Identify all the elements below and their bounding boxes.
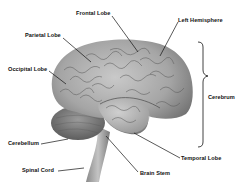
label-brain-stem: Brain Stem <box>140 171 170 177</box>
label-parietal-lobe: Parietal Lobe <box>25 33 61 39</box>
brain-diagram: Frontal Lobe Left Hemisphere Parietal Lo… <box>0 0 238 182</box>
label-occipital-lobe: Occipital Lobe <box>8 67 47 73</box>
label-left-hemisphere: Left Hemisphere <box>178 18 223 24</box>
label-cerebrum: Cerebrum <box>208 95 235 101</box>
label-spinal-cord: Spinal Cord <box>22 168 54 174</box>
label-cerebellum: Cerebellum <box>8 141 39 147</box>
label-temporal-lobe: Temporal Lobe <box>181 156 221 162</box>
cerebrum-bracket <box>198 42 208 147</box>
label-frontal-lobe: Frontal Lobe <box>76 11 110 17</box>
